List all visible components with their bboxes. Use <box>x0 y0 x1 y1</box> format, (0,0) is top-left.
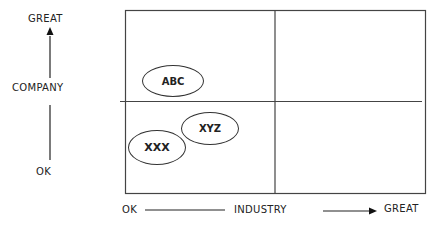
item-label: ABC <box>162 76 185 87</box>
x-axis-title: INDUSTRY <box>234 204 287 215</box>
y-axis-high-label: GREAT <box>28 13 63 24</box>
y-axis-arrowhead-icon <box>47 27 54 35</box>
item-abc: ABC <box>142 65 204 97</box>
x-axis-arrowhead-icon <box>369 208 377 215</box>
x-axis-high-label: GREAT <box>384 203 419 214</box>
item-label: XXX <box>144 141 169 154</box>
y-axis-low-label: OK <box>36 166 51 177</box>
x-axis-low-label: OK <box>122 204 137 215</box>
y-axis-title: COMPANY <box>12 82 63 93</box>
item-xyz: XYZ <box>181 112 239 145</box>
item-xxx: XXX <box>128 130 186 165</box>
item-label: XYZ <box>199 123 221 134</box>
